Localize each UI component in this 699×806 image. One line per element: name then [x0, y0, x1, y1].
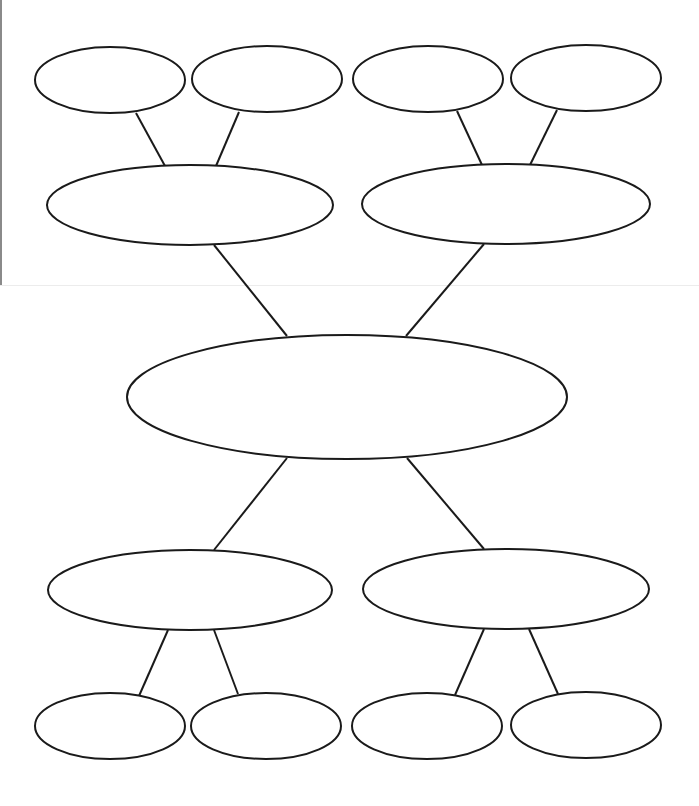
connector-mid-top-right-to-center — [406, 244, 484, 336]
connector-mid-bottom-right-to-leaf-bottom-4 — [529, 629, 558, 694]
bubble-leaf-top-1[interactable] — [35, 47, 185, 113]
bubble-outline — [353, 46, 503, 112]
bubble-outline — [511, 692, 661, 758]
connector-leaf-top-2-to-mid-top-left — [216, 112, 239, 166]
bubble-map-canvas — [0, 0, 699, 806]
bubble-center[interactable] — [127, 335, 567, 459]
connector-leaf-top-1-to-mid-top-left — [136, 113, 165, 166]
bubble-mid-top-left[interactable] — [47, 165, 333, 245]
bubble-leaf-bottom-2[interactable] — [191, 693, 341, 759]
bubble-leaf-top-2[interactable] — [192, 46, 342, 112]
bubble-outline — [35, 47, 185, 113]
bubble-mid-top-right[interactable] — [362, 164, 650, 244]
connector-center-to-mid-bottom-left — [214, 458, 287, 550]
connector-leaf-top-3-to-mid-top-right — [457, 111, 482, 165]
bubble-outline — [35, 693, 185, 759]
bubble-outline — [362, 164, 650, 244]
bubble-outline — [191, 693, 341, 759]
connector-mid-top-left-to-center — [214, 245, 287, 336]
bubble-leaf-bottom-1[interactable] — [35, 693, 185, 759]
bubble-leaf-bottom-4[interactable] — [511, 692, 661, 758]
connector-center-to-mid-bottom-right — [407, 458, 484, 549]
connector-mid-bottom-right-to-leaf-bottom-3 — [455, 629, 484, 695]
bubble-outline — [192, 46, 342, 112]
bubble-outline — [48, 550, 332, 630]
bubble-leaf-bottom-3[interactable] — [352, 693, 502, 759]
connector-leaf-top-4-to-mid-top-right — [530, 110, 557, 165]
bubble-outline — [352, 693, 502, 759]
bubble-nodes — [35, 45, 661, 759]
bubble-mid-bottom-right[interactable] — [363, 549, 649, 629]
bubble-leaf-top-4[interactable] — [511, 45, 661, 111]
bubble-outline — [363, 549, 649, 629]
bubble-outline — [47, 165, 333, 245]
bubble-outline — [127, 335, 567, 459]
bubble-mid-bottom-left[interactable] — [48, 550, 332, 630]
bubble-leaf-top-3[interactable] — [353, 46, 503, 112]
connector-mid-bottom-left-to-leaf-bottom-1 — [139, 630, 168, 696]
bubble-outline — [511, 45, 661, 111]
connector-mid-bottom-left-to-leaf-bottom-2 — [214, 630, 238, 694]
